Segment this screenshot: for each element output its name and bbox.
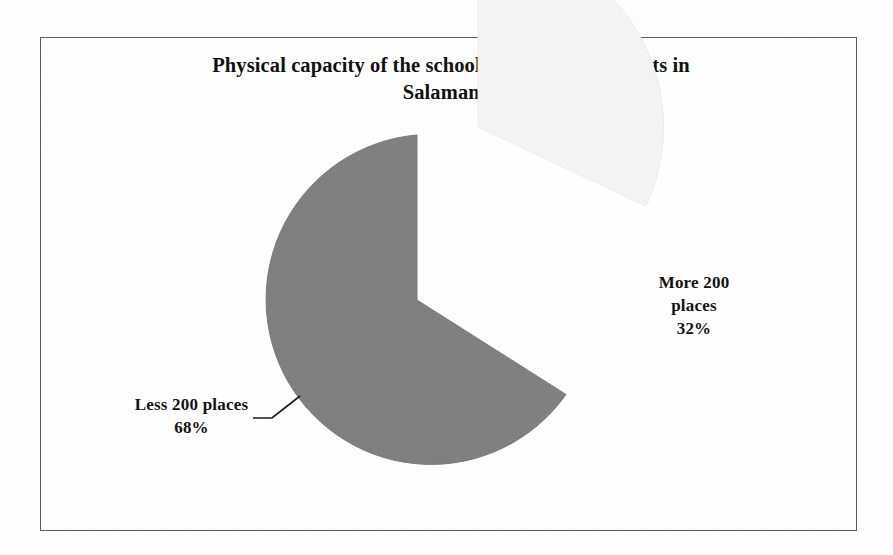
chart-page: Physical capacity of the schools for for…	[0, 0, 893, 555]
pie-label-less-line1: Less 200 places	[84, 394, 299, 417]
pie-label-less-value: 68%	[84, 417, 299, 440]
pie-label-more-value: 32%	[614, 318, 774, 341]
pie-label-more-200-places: More 200 places 32%	[614, 272, 774, 341]
pie-label-more-line2: places	[614, 295, 774, 318]
pie-label-more-line1: More 200	[614, 272, 774, 295]
pie-slice-more-200-places[interactable]	[478, 0, 664, 206]
pie-slice-less-200-places[interactable]	[266, 135, 566, 464]
pie-label-less-200-places: Less 200 places 68%	[84, 394, 299, 440]
